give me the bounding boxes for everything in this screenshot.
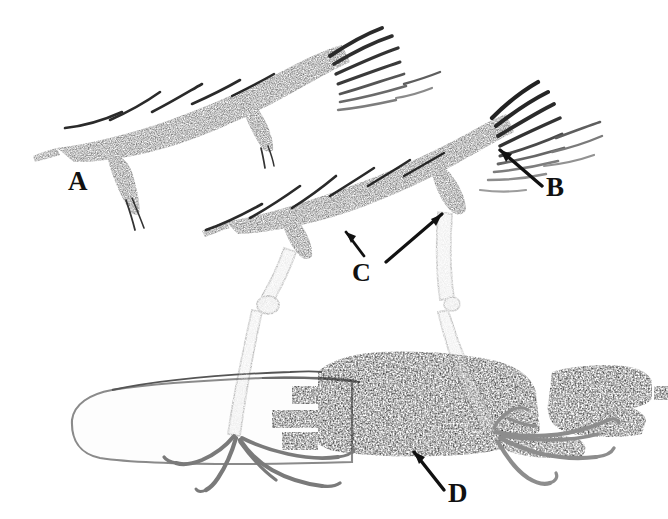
label-a: A	[68, 168, 88, 195]
lower-wing-feather-tips	[480, 82, 602, 192]
lower-wing-joint-right	[432, 167, 466, 214]
leader-arrow-c-right	[386, 214, 442, 262]
label-d: D	[448, 480, 468, 507]
leader-arrow-c-left	[346, 232, 364, 256]
label-c: C	[352, 260, 371, 286]
illustration-canvas	[0, 0, 668, 519]
upper-wing-feather-tips	[330, 28, 440, 110]
figure-illustration: A B C D	[0, 0, 668, 519]
label-b: B	[546, 174, 564, 201]
lower-wing-body	[202, 114, 514, 259]
right-ankle-node	[444, 297, 460, 311]
leader-arrow-d	[414, 452, 444, 490]
